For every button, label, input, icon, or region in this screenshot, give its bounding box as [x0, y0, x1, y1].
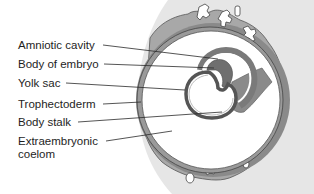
label-yolk-sac: Yolk sac: [18, 77, 60, 90]
label-body-of-embryo: Body of embryo: [18, 58, 99, 71]
label-extraembryonic-coelom: Extraembryonic coelom: [18, 135, 118, 161]
label-amniotic-cavity: Amniotic cavity: [18, 39, 95, 52]
embryo-diagram: [0, 0, 314, 194]
label-body-stalk: Body stalk: [18, 116, 71, 129]
label-trophectoderm: Trophectoderm: [18, 98, 96, 111]
